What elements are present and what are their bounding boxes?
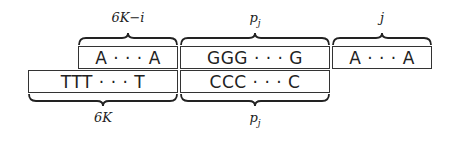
- segment-text: A · · · A: [95, 48, 161, 68]
- segment-text: GGG · · · G: [207, 48, 303, 68]
- segment-c-run: CCC · · · C: [180, 70, 330, 93]
- segment-g-run: GGG · · · G: [180, 46, 330, 69]
- segment-t-run: TTT · · · T: [28, 70, 178, 93]
- label-text: j: [380, 10, 384, 25]
- label-text: 6K−i: [111, 10, 144, 25]
- segment-text: CCC · · · C: [210, 72, 301, 92]
- segment-a-run-left: A · · · A: [78, 46, 178, 69]
- top-label-pj: pj: [249, 10, 260, 28]
- label-text: pj: [249, 110, 260, 125]
- bottom-label-pj: pj: [249, 110, 260, 128]
- label-text: pj: [249, 10, 260, 25]
- top-label-j: j: [380, 10, 384, 25]
- segment-a-run-right: A · · · A: [332, 46, 432, 69]
- top-brace-2: [180, 32, 330, 46]
- segment-text: A · · · A: [349, 48, 415, 68]
- bottom-brace-2: [180, 93, 330, 107]
- segment-text: TTT · · · T: [61, 72, 145, 92]
- top-label-6k-minus-i: 6K−i: [111, 10, 144, 25]
- top-brace-1: [78, 32, 178, 46]
- bottom-brace-1: [28, 93, 178, 107]
- top-brace-3: [332, 32, 432, 46]
- label-text: 6K: [94, 110, 112, 125]
- bottom-label-6k: 6K: [94, 110, 112, 125]
